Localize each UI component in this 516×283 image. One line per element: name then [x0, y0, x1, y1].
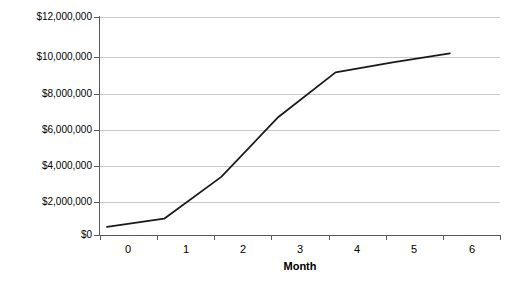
y-tick-6m — [94, 130, 99, 131]
y-tick-label-4m-wrap: $4,000,000 — [0, 161, 92, 171]
x-tick-label-2: 2 — [223, 243, 263, 255]
plot-area — [100, 17, 500, 235]
x-tick-3 — [271, 235, 272, 240]
gridline-10m — [100, 57, 500, 58]
x-tick-2 — [214, 235, 215, 240]
x-tick-label-0: 0 — [108, 243, 148, 255]
y-tick-label-4m: $4,000,000 — [0, 161, 92, 171]
y-tick-label-0-wrap: $0 — [0, 230, 92, 240]
x-tick-label-1: 1 — [166, 243, 206, 255]
x-tick-label-6: 6 — [452, 243, 492, 255]
y-tick-12m — [94, 17, 99, 18]
y-tick-label-12m-wrap: $12,000,000 — [0, 12, 92, 22]
x-tick-label-4: 4 — [337, 243, 377, 255]
y-tick-label-2m-wrap: $2,000,000 — [0, 197, 92, 207]
y-tick-10m — [94, 57, 99, 58]
x-tick-label-5: 5 — [394, 243, 434, 255]
x-tick-5 — [386, 235, 387, 240]
y-tick-label-6m-wrap: $6,000,000 — [0, 125, 92, 135]
y-tick-label-10m-wrap: $10,000,000 — [0, 52, 92, 62]
y-tick-8m — [94, 94, 99, 95]
x-tick-4 — [329, 235, 330, 240]
y-tick-0 — [94, 235, 99, 236]
x-tick-label-3: 3 — [280, 243, 320, 255]
x-tick-7 — [500, 235, 501, 240]
x-tick-6 — [443, 235, 444, 240]
y-tick-label-6m: $6,000,000 — [0, 125, 92, 135]
y-tick-label-10m: $10,000,000 — [0, 52, 92, 62]
x-tick-0 — [100, 235, 101, 240]
gridline-12m — [100, 17, 500, 18]
y-tick-label-8m: $8,000,000 — [0, 89, 92, 99]
y-axis-line — [99, 16, 100, 236]
line-chart: $12,000,000 $10,000,000 $8,000,000 $6,00… — [0, 0, 516, 283]
gridline-2m — [100, 202, 500, 203]
gridline-6m — [100, 130, 500, 131]
x-axis-title: Month — [100, 260, 500, 272]
y-tick-label-2m: $2,000,000 — [0, 197, 92, 207]
y-tick-4m — [94, 166, 99, 167]
y-tick-label-8m-wrap: $8,000,000 — [0, 89, 92, 99]
x-tick-1 — [157, 235, 158, 240]
gridline-4m — [100, 166, 500, 167]
y-tick-2m — [94, 202, 99, 203]
y-tick-label-12m: $12,000,000 — [0, 12, 92, 22]
x-axis-line — [99, 235, 501, 236]
y-tick-label-0: $0 — [0, 230, 92, 240]
gridline-8m — [100, 94, 500, 95]
